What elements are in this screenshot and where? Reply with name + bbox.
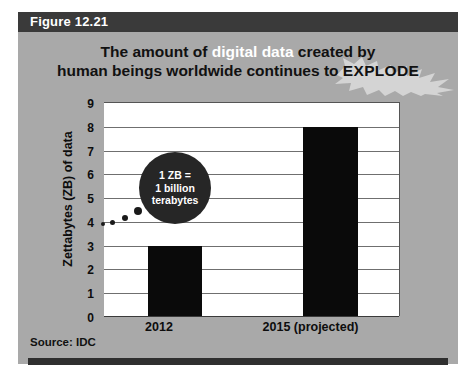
title-text-line2: human beings worldwide continues to	[57, 62, 343, 79]
bar-2012[interactable]	[148, 246, 202, 316]
y-tick-7: 7	[74, 146, 94, 158]
title-text-post: created by	[294, 43, 376, 60]
y-tick-9: 9	[74, 98, 94, 110]
callout-line-3: terabytes	[152, 194, 199, 207]
title-highlight-digital-data: digital data	[212, 43, 294, 60]
title-emphasis-explode: EXPLODE	[343, 62, 419, 79]
y-tick-5: 5	[74, 193, 94, 205]
y-tick-2: 2	[74, 264, 94, 276]
figure-container: Figure 12.21 The amount of digital data …	[0, 0, 474, 380]
title-text-pre: The amount of	[101, 43, 212, 60]
chart-area: Zettabytes (ZB) of data 9 8 7 6 5 4 3 2 …	[18, 96, 458, 326]
y-tick-8: 8	[74, 122, 94, 134]
trail-dot-4	[134, 207, 142, 215]
x-axis-line	[104, 316, 399, 317]
source-note: Source: IDC	[30, 336, 96, 348]
y-tick-1: 1	[74, 288, 94, 300]
y-tick-6: 6	[74, 169, 94, 181]
bar-2015-projected[interactable]	[303, 127, 358, 316]
trail-dot-1	[101, 222, 105, 226]
footer-bar	[28, 358, 448, 365]
figure-title: The amount of digital data created by hu…	[18, 42, 458, 80]
title-line-1: The amount of digital data created by	[18, 42, 458, 61]
trail-dot-3	[122, 215, 128, 221]
y-axis-title: Zettabytes (ZB) of data	[61, 109, 75, 289]
y-tick-0: 0	[74, 312, 94, 324]
x-tick-2012: 2012	[124, 320, 194, 334]
figure-number-label: Figure 12.21	[30, 14, 108, 29]
callout-line-2: 1 billion	[155, 182, 195, 195]
title-line-2: human beings worldwide continues to EXPL…	[18, 61, 458, 80]
callout-bubble: 1 ZB = 1 billion terabytes	[139, 152, 211, 224]
y-tick-3: 3	[74, 241, 94, 253]
figure-header-bar: Figure 12.21	[18, 12, 458, 32]
y-tick-4: 4	[74, 217, 94, 229]
x-tick-2015: 2015 (projected)	[248, 320, 373, 334]
callout-line-1: 1 ZB =	[159, 169, 191, 182]
trail-dot-2	[110, 220, 115, 225]
